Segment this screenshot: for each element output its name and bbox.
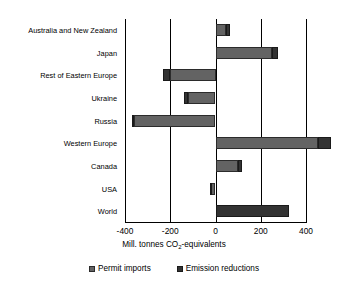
bar-segment-permit-imports[interactable]	[188, 92, 215, 104]
x-tick--200: -200	[150, 226, 190, 236]
category-label-ukraine: Ukraine	[0, 94, 117, 103]
bar-segment-permit-imports[interactable]	[134, 115, 215, 127]
category-label-usa: USA	[0, 185, 117, 194]
x-axis-title: Mill. tonnes CO2-equivalents	[0, 240, 348, 249]
legend-swatch-icon-permit-imports	[89, 266, 95, 272]
x-tick-200: 200	[241, 226, 281, 236]
bar-segment-emission-reductions[interactable]	[184, 92, 188, 104]
category-label-australia-and-new-zealand: Australia and New Zealand	[0, 26, 117, 35]
bar-segment-permit-imports[interactable]	[216, 47, 273, 59]
gridline-400	[306, 19, 307, 223]
bar-row	[125, 64, 306, 87]
x-axis-title-prefix: Mill. tonnes CO	[122, 240, 178, 249]
bar-segment-permit-imports[interactable]	[216, 160, 239, 172]
category-label-rest-of-eastern-europe: Rest of Eastern Europe	[0, 71, 117, 80]
bar-segment-emission-reductions[interactable]	[238, 160, 242, 172]
x-axis-title-suffix: -equivalents	[182, 240, 226, 249]
chart-legend: Permit imports Emission reductions	[0, 264, 348, 273]
bar-segment-emission-reductions[interactable]	[226, 24, 231, 36]
bar-row	[125, 19, 306, 42]
x-tick-0: 0	[196, 226, 236, 236]
bar-row	[125, 200, 306, 223]
legend-label-emission-reductions: Emission reductions	[186, 264, 259, 273]
category-label-world: World	[0, 207, 117, 216]
legend-item-permit-imports[interactable]: Permit imports	[89, 264, 151, 273]
chart-container: Australia and New ZealandJapanRest of Ea…	[0, 0, 348, 283]
category-label-japan: Japan	[0, 49, 117, 58]
bar-row	[125, 178, 306, 201]
bar-row	[125, 110, 306, 133]
legend-swatch-icon-emission-reductions	[177, 266, 183, 272]
bar-row	[125, 42, 306, 65]
category-label-russia: Russia	[0, 117, 117, 126]
bar-segment-emission-reductions[interactable]	[132, 115, 134, 127]
x-axis-title-subscript: 2	[178, 244, 181, 250]
category-label-western-europe: Western Europe	[0, 139, 117, 148]
category-axis-labels: Australia and New ZealandJapanRest of Ea…	[0, 19, 121, 223]
category-label-canada: Canada	[0, 162, 117, 171]
bar-segment-emission-reductions[interactable]	[318, 137, 330, 149]
bar-segment-permit-imports[interactable]	[216, 24, 226, 36]
bar-row	[125, 155, 306, 178]
legend-item-emission-reductions[interactable]: Emission reductions	[177, 264, 259, 273]
x-tick-400: 400	[286, 226, 326, 236]
bar-row	[125, 132, 306, 155]
x-axis-line	[125, 222, 306, 223]
bar-row	[125, 87, 306, 110]
bar-segment-emission-reductions[interactable]	[163, 69, 170, 81]
bar-segment-permit-imports[interactable]	[170, 69, 215, 81]
legend-label-permit-imports: Permit imports	[98, 264, 151, 273]
bar-segment-emission-reductions[interactable]	[272, 47, 278, 59]
x-tick--400: -400	[105, 226, 145, 236]
bar-segment-emission-reductions[interactable]	[210, 183, 212, 195]
bar-segment-permit-imports[interactable]	[216, 137, 319, 149]
plot-area	[125, 19, 306, 223]
bar-segment-emission-reductions[interactable]	[216, 205, 290, 217]
